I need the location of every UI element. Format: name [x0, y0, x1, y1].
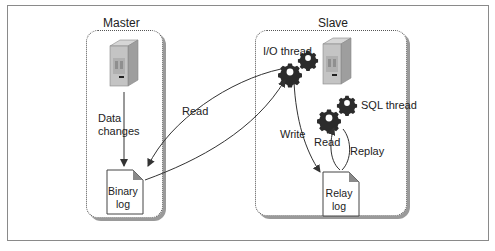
diagram-graphics — [0, 0, 495, 251]
write-label: Write — [280, 128, 305, 140]
slave-read-label: Read — [314, 136, 340, 148]
data-changes-line1: Data — [98, 112, 140, 125]
binary-log-line1: Binary — [107, 185, 139, 198]
replay-label: Replay — [350, 145, 384, 157]
sql-thread-label: SQL thread — [361, 99, 417, 111]
slave-server-icon — [323, 38, 351, 84]
binary-log-line2: log — [107, 198, 139, 211]
cross-read-label: Read — [182, 105, 208, 117]
data-changes-label: Data changes — [98, 112, 140, 138]
relay-log-label: Relay log — [323, 187, 355, 213]
sql-thread-gear-icon — [317, 96, 357, 134]
relay-log-line1: Relay — [323, 187, 355, 200]
data-changes-line2: changes — [98, 125, 140, 138]
relay-log-line2: log — [323, 200, 355, 213]
master-server-icon — [110, 40, 138, 86]
binary-log-label: Binary log — [107, 185, 139, 211]
io-thread-label: I/O thread — [263, 45, 312, 57]
